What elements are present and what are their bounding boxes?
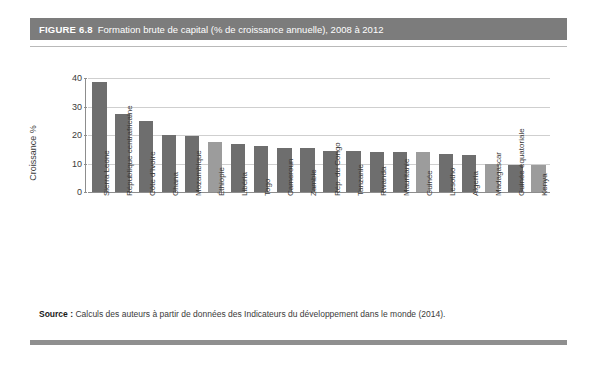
y-tick-mark <box>84 192 87 193</box>
source-note: Source : Calculs des auteurs à partir de… <box>39 309 445 319</box>
plot-area <box>88 78 550 192</box>
y-tick-mark <box>84 135 87 136</box>
x-tick-label: Lesotho <box>449 168 457 196</box>
x-tick-label: Algeria <box>472 171 480 196</box>
x-tick-label: Sierra Leone <box>103 150 111 196</box>
title-divider <box>30 46 567 47</box>
x-tick-label: Zambie <box>310 169 318 196</box>
x-tick-label: Côte d'Ivoire <box>149 151 157 196</box>
bar-chart: Croissance % 010203040Sierra LeoneRépubl… <box>30 52 567 292</box>
gridline <box>88 192 550 193</box>
x-tick-label: Rép. du Congo <box>334 142 342 196</box>
figure-title-band: FIGURE 6.8 Formation brute de capital (%… <box>30 18 567 40</box>
x-tick-label: Kenya <box>541 173 549 196</box>
figure-container: FIGURE 6.8 Formation brute de capital (%… <box>0 0 597 366</box>
gridline <box>88 78 550 79</box>
x-tick-label: Guinée équatoriale <box>518 128 526 196</box>
x-tick-label: Cameroun <box>287 159 295 196</box>
x-tick-label: Éthiopie <box>218 167 226 196</box>
y-tick-label: 0 <box>60 188 82 197</box>
y-axis-title: Croissance % <box>28 108 38 198</box>
source-label: Source : <box>39 309 73 319</box>
x-tick-label: Togo <box>264 179 272 196</box>
figure-bottom-rule <box>30 340 567 345</box>
figure-number: FIGURE 6.8 <box>39 24 93 35</box>
y-tick-label: 30 <box>60 102 82 111</box>
y-tick-label: 20 <box>60 131 82 140</box>
x-tick-label: Tanzanie <box>357 164 365 196</box>
y-tick-mark <box>84 107 87 108</box>
plot-inner <box>88 78 550 192</box>
y-tick-mark <box>84 78 87 79</box>
figure-title: Formation brute de capital (% de croissa… <box>98 24 384 35</box>
y-tick-label: 10 <box>60 159 82 168</box>
x-tick-label: Mauritanie <box>403 159 411 196</box>
x-tick-label: Rwanda <box>380 167 388 196</box>
x-tick-label: Guinée <box>426 170 434 196</box>
x-tick-label: Ghana <box>172 172 180 196</box>
x-tick-label: Libéria <box>241 172 249 196</box>
source-text: Calculs des auteurs à partir de données … <box>75 309 445 319</box>
x-tick-label: République centrafricaine <box>126 105 134 196</box>
y-tick-label: 40 <box>60 74 82 83</box>
x-tick-label: Madagascar <box>495 152 503 196</box>
gridline <box>88 135 550 136</box>
gridline <box>88 107 550 108</box>
gridline <box>88 164 550 165</box>
y-tick-mark <box>84 164 87 165</box>
x-tick-label: Mozambique <box>195 150 203 196</box>
